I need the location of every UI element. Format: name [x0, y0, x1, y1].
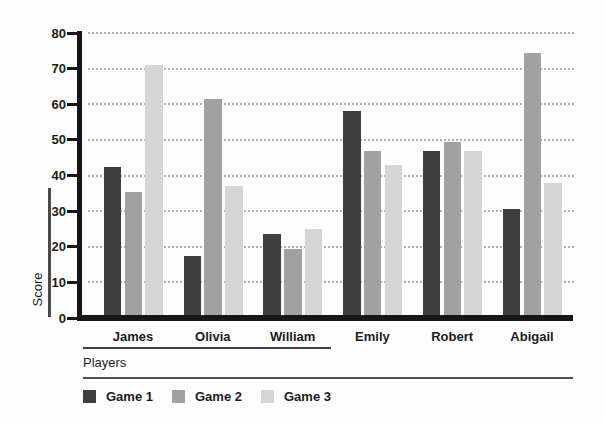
y-tick-label-20: 20: [26, 239, 66, 254]
x-axis-label-james: James: [91, 329, 175, 344]
x-axis-title: Players: [83, 355, 126, 370]
y-tick-label-80: 80: [26, 26, 66, 41]
legend-label-game2: Game 2: [195, 389, 242, 404]
bar-robert-game1: [423, 151, 441, 318]
bar-olivia-game1: [184, 256, 202, 318]
bar-emily-game3: [385, 165, 403, 318]
bar-william-game1: [263, 234, 281, 318]
bar-william-game3: [305, 229, 323, 318]
legend-item-game1: Game 1: [83, 389, 153, 404]
x-axis-label-olivia: Olivia: [171, 329, 255, 344]
y-tick-40: [67, 174, 78, 177]
bar-abigail-game1: [503, 209, 521, 318]
bar-chart-figure: Score 01020304050607080 JamesOliviaWilli…: [0, 0, 606, 423]
x-axis-line: [77, 315, 573, 321]
legend-label-game1: Game 1: [106, 389, 153, 404]
y-tick-label-60: 60: [26, 97, 66, 112]
bar-abigail-game2: [524, 53, 542, 318]
y-tick-60: [67, 103, 78, 106]
legend-item-game2: Game 2: [172, 389, 242, 404]
x-axis-title-bracket: [83, 347, 331, 349]
bar-james-game3: [145, 65, 163, 318]
bar-emily-game1: [343, 111, 361, 318]
legend-swatch-game2: [172, 390, 185, 403]
x-axis-label-emily: Emily: [330, 329, 414, 344]
y-tick-label-30: 30: [26, 204, 66, 219]
bar-emily-game2: [364, 151, 382, 318]
legend-swatch-game1: [83, 390, 96, 403]
legend-swatch-game3: [261, 390, 274, 403]
x-axis-label-william: William: [251, 329, 335, 344]
y-tick-label-0: 0: [26, 311, 66, 326]
y-tick-30: [67, 210, 78, 213]
bar-robert-game3: [464, 151, 482, 318]
gridline-80: [88, 32, 574, 34]
y-tick-label-40: 40: [26, 168, 66, 183]
y-tick-80: [67, 32, 78, 35]
legend-label-game3: Game 3: [284, 389, 331, 404]
y-tick-70: [67, 67, 78, 70]
bar-robert-game2: [444, 142, 462, 318]
legend-divider: [83, 377, 573, 379]
legend: Game 1Game 2Game 3: [83, 389, 350, 404]
bar-olivia-game2: [204, 99, 222, 318]
y-tick-label-70: 70: [26, 61, 66, 76]
y-tick-label-50: 50: [26, 132, 66, 147]
bar-james-game2: [125, 192, 143, 318]
legend-item-game3: Game 3: [261, 389, 331, 404]
y-tick-label-10: 10: [26, 275, 66, 290]
x-axis-label-robert: Robert: [410, 329, 494, 344]
bar-abigail-game3: [544, 183, 562, 318]
bar-olivia-game3: [225, 186, 243, 318]
y-tick-10: [67, 281, 78, 284]
y-tick-20: [67, 245, 78, 248]
bar-james-game1: [104, 167, 122, 318]
bar-william-game2: [284, 249, 302, 318]
x-axis-label-abigail: Abigail: [490, 329, 574, 344]
y-tick-50: [67, 138, 78, 141]
